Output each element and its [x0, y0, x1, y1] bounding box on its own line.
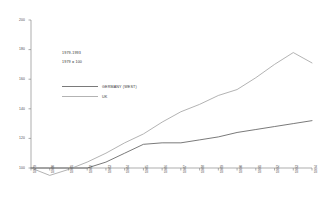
annotation-period: 1979-1993 [62, 51, 81, 55]
x-axis-tick-label: 1992 [276, 165, 280, 173]
y-axis-tick-marks [29, 20, 32, 168]
x-axis-tick-label: 1979 [33, 165, 37, 173]
y-axis-tick-label: 120 [11, 136, 25, 140]
y-axis-tick-label: 140 [11, 107, 25, 111]
x-axis-tick-label: 1993 [295, 165, 299, 173]
x-axis-tick-label: 1983 [108, 165, 112, 173]
y-axis-tick-label: 160 [11, 77, 25, 81]
chart-axes [31, 20, 312, 168]
legend-label-germany-west: GERMANY (WEST) [102, 85, 137, 89]
x-axis-tick-label: 1985 [145, 165, 149, 173]
legend-line-samples [62, 87, 98, 97]
x-axis-tick-label: 1980 [51, 165, 55, 173]
chart-series-lines [31, 53, 312, 176]
x-axis-tick-label: 1988 [201, 165, 205, 173]
x-axis-tick-label: 1984 [126, 165, 130, 173]
x-axis-tick-label: 1991 [258, 165, 262, 173]
series-line-uk [31, 53, 312, 176]
x-axis-tick-label: 1990 [239, 165, 243, 173]
x-axis-tick-label: 1994 [314, 165, 318, 173]
x-axis-tick-label: 1982 [89, 165, 93, 173]
y-axis-tick-label: 200 [11, 18, 25, 22]
y-axis-tick-label: 100 [11, 166, 25, 170]
legend-label-uk: UK [102, 95, 107, 99]
annotation-base-year: 1979 = 100 [62, 60, 82, 64]
series-line-germany-west [31, 121, 312, 168]
x-axis-tick-label: 1989 [220, 165, 224, 173]
y-axis-tick-label: 180 [11, 47, 25, 51]
x-axis-tick-label: 1987 [183, 165, 187, 173]
x-axis-tick-label: 1981 [70, 165, 74, 173]
x-axis-tick-label: 1986 [164, 165, 168, 173]
chart-container: 100120140160180200 197919801981198219831… [0, 0, 325, 202]
